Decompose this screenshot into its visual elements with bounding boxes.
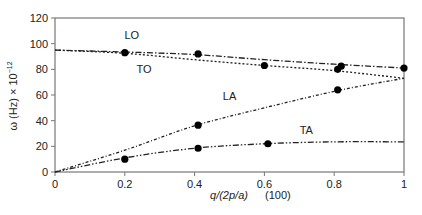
- data-point-lo: [121, 49, 128, 56]
- data-points: [121, 49, 407, 163]
- data-point-lo: [194, 50, 201, 57]
- data-point-to: [334, 66, 341, 73]
- y-tick-label: 80: [36, 63, 48, 75]
- x-axis-ticks: 00.20.40.60.81: [52, 172, 407, 190]
- series-labels: LOTOLATA: [124, 29, 313, 136]
- y-tick-label: 20: [36, 140, 48, 152]
- curve-ta: [55, 142, 404, 172]
- series-label-la: LA: [223, 90, 237, 102]
- y-tick-label: 40: [36, 115, 48, 127]
- data-point-ta: [194, 145, 201, 152]
- y-axis-label-text: ω (Hz) × 10: [7, 73, 19, 130]
- data-point-la: [334, 86, 341, 93]
- data-point-lo: [400, 64, 407, 71]
- data-point-ta: [121, 156, 128, 163]
- y-axis-ticks: 020406080100120: [30, 12, 55, 178]
- x-tick-label: 0: [52, 178, 58, 190]
- y-tick-label: 60: [36, 89, 48, 101]
- data-point-ta: [264, 140, 271, 147]
- x-tick-label: 0.8: [327, 178, 342, 190]
- series-label-ta: TA: [300, 124, 314, 136]
- y-axis-label-exponent: −12: [6, 61, 13, 73]
- dispersion-curves: [55, 50, 404, 172]
- curve-to: [55, 50, 404, 78]
- y-tick-label: 120: [30, 12, 48, 24]
- x-axis-label: q/(2p/a): [210, 189, 248, 201]
- series-label-to: TO: [136, 63, 152, 75]
- y-axis-label: ω (Hz) × 10−12: [6, 61, 19, 130]
- x-tick-label: 1: [401, 178, 407, 190]
- y-tick-label: 0: [42, 166, 48, 178]
- data-point-to: [261, 62, 268, 69]
- x-axis-label-direction: (100): [265, 189, 291, 201]
- x-tick-label: 0.2: [117, 178, 132, 190]
- series-label-lo: LO: [124, 29, 139, 41]
- dispersion-chart: 020406080100120 00.20.40.60.81 LOTOLATA …: [0, 0, 422, 215]
- svg-text:ω (Hz) × 10−12: ω (Hz) × 10−12: [6, 61, 19, 130]
- x-tick-label: 0.4: [187, 178, 202, 190]
- data-point-la: [194, 122, 201, 129]
- y-tick-label: 100: [30, 38, 48, 50]
